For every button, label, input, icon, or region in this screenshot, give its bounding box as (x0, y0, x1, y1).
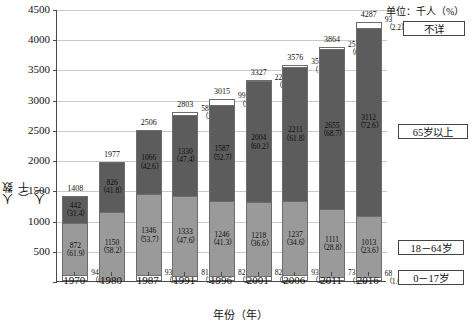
bar-segment-senior (356, 28, 382, 216)
bar-segment-senior (319, 49, 345, 209)
plot-area: 94（6.7）872（61.9）442（31.4）14081150（58.2）8… (56, 10, 386, 282)
legend-item-adult[interactable]: 18－64岁 (398, 240, 464, 255)
bar-1970[interactable]: 94（6.7）872（61.9）442（31.4）1408 (62, 9, 88, 281)
y-axis-tick (53, 131, 57, 132)
bar-segment-adult (62, 223, 88, 276)
bar-1987[interactable]: 93（3.7）1346（53.7）1066（42.6）2506 (136, 9, 162, 281)
y-axis-tick-label: 4000 (6, 34, 50, 45)
bar-total-label: 1977 (92, 151, 132, 159)
bar-total-label: 3015 (202, 88, 242, 96)
bar-2006[interactable]: 93（2.6）1237（34.6）2211（61.8）35（1.0）3576 (282, 9, 308, 281)
bar-1991[interactable]: 81（2.9）1333（47.6）1330（47.4）58（2.1）2803 (172, 9, 198, 281)
bar-total-label: 2506 (129, 119, 169, 127)
bar-1996[interactable]: 82（2.7）1246（41.3）1587（52.7）99（3.3）3015 (209, 9, 235, 281)
bar-total-label: 4287 (349, 11, 389, 19)
bar-segment-senior (136, 130, 162, 194)
y-axis-tick-label: 4500 (6, 4, 50, 15)
bar-2016[interactable]: 68（1.6）1013（23.6）3112（72.6）93（2.2）4287 (356, 9, 382, 281)
bar-segment-adult (99, 212, 125, 282)
bar-segment-senior (282, 67, 308, 201)
bar-2001[interactable]: 82（2.5）1218（36.6）2004（60.2）22（0.7）3327 (246, 9, 272, 281)
y-axis-tick-label: 3000 (6, 95, 50, 106)
bar-segment-adult (319, 209, 345, 276)
bar-segment-senior (246, 81, 272, 202)
x-axis-title: 年份（年） (150, 306, 330, 322)
bar-segment-adult (246, 202, 272, 276)
y-axis-tick (53, 222, 57, 223)
y-axis-tick (53, 40, 57, 41)
y-axis-tick-label: 2000 (6, 155, 50, 166)
y-axis-tick (53, 161, 57, 162)
bar-segment-unknown (246, 80, 272, 81)
bar-segment-unknown (172, 112, 198, 116)
legend-item-child[interactable]: 0－17岁 (398, 270, 464, 285)
bar-segment-adult (172, 196, 198, 277)
y-axis-tick (53, 10, 57, 11)
bar-1980[interactable]: 1150（58.2）826（41.8）1977 (99, 9, 125, 281)
bar-segment-unknown (319, 47, 345, 49)
y-axis-tick-label: 3500 (6, 64, 50, 75)
bar-segment-senior (209, 105, 235, 201)
y-axis-tick (53, 70, 57, 71)
y-axis-tick (53, 101, 57, 102)
bar-2011[interactable]: 73（1.9）1111（28.8）2655（68.7）25（0.6）3864 (319, 9, 345, 281)
bar-segment-senior (99, 162, 125, 212)
legend-item-unknown[interactable]: 不详 (403, 21, 465, 36)
bar-total-label: 3576 (275, 54, 315, 62)
bar-segment-adult (282, 201, 308, 276)
y-axis-tick-label: 2500 (6, 125, 50, 136)
stacked-bar-chart: 单位：千人（%） 人数（千人） 94（6.7）872（61.9）442（31.4… (0, 0, 474, 327)
bar-total-label: 3327 (239, 69, 279, 77)
bar-segment-unknown (356, 22, 382, 28)
bar-segment-adult (356, 216, 382, 277)
bar-segment-unknown (209, 99, 235, 105)
bar-segment-adult (136, 194, 162, 275)
x-axis-tick-label: 2016 (345, 274, 391, 286)
bar-segment-unknown (282, 65, 308, 67)
legend-item-senior[interactable]: 65岁以上 (398, 124, 468, 139)
y-axis-tick-label: 1500 (6, 185, 50, 196)
y-axis-tick-label: 500 (6, 246, 50, 257)
bar-total-label: 2803 (165, 101, 205, 109)
y-axis-tick (53, 252, 57, 253)
bar-total-label: 1408 (55, 185, 95, 193)
y-axis-tick-label: 1000 (6, 216, 50, 227)
bar-segment-senior (172, 115, 198, 195)
bar-segment-adult (209, 201, 235, 276)
bar-segment-senior (62, 196, 88, 223)
bar-total-label: 3864 (312, 36, 352, 44)
unit-annotation: 单位：千人（%） (386, 3, 464, 18)
